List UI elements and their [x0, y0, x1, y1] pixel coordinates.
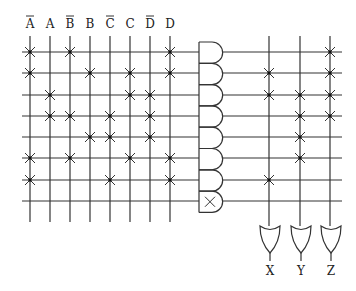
input-label-text: B [66, 17, 75, 31]
and-gate-array [199, 42, 223, 212]
and-gate [199, 191, 223, 212]
or-gate-z: Z [321, 226, 341, 278]
input-label-text: B [86, 17, 95, 31]
output-label: Z [327, 264, 335, 278]
input-label-b: B [86, 17, 95, 222]
input-label-d: D [165, 17, 175, 222]
input-label-text: A [45, 17, 55, 31]
or-gate-x: X [260, 226, 280, 278]
and-gate [199, 127, 223, 148]
input-label-c: C [125, 17, 134, 222]
output-label: X [266, 264, 275, 278]
or-gate-body [321, 226, 341, 253]
or-gate-y: Y [291, 226, 311, 278]
and-gate [199, 63, 223, 84]
input-label-text: C [105, 17, 114, 31]
or-gate-body [291, 226, 311, 253]
output-label: Y [296, 264, 306, 278]
input-label-text: A [25, 17, 35, 31]
and-gate [199, 170, 223, 191]
input-label-text: D [145, 17, 155, 31]
and-gate [199, 42, 223, 63]
pla-circuit: AABBCCDDXYZ [0, 0, 356, 291]
or-gate-body [260, 226, 280, 253]
and-gate [199, 106, 223, 127]
pla-diagram: AABBCCDDXYZ [0, 0, 356, 291]
and-gate [199, 85, 223, 106]
input-label-text: D [165, 17, 175, 31]
input-label-not-a: A [25, 16, 35, 222]
and-gate [199, 149, 223, 170]
input-label-text: C [125, 17, 134, 31]
